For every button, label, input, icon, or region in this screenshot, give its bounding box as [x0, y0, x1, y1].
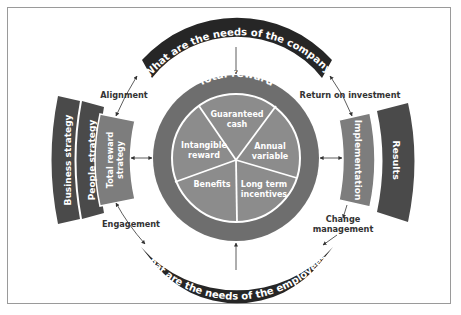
svg-text:Long term: Long term	[241, 180, 287, 189]
alignment-label: Alignment	[100, 90, 148, 100]
pie-segment-benefits: Benefits	[193, 180, 230, 189]
svg-text:variable: variable	[252, 152, 289, 161]
svg-text:Annual: Annual	[254, 142, 286, 151]
engagement-label: Engagement	[102, 219, 160, 229]
business-strategy-label: Business strategy	[63, 114, 73, 205]
total-reward-strategy-label-1: Total reward	[106, 131, 115, 188]
pie-segment-long-term-incentives: Long term incentives	[241, 180, 288, 199]
svg-text:cash: cash	[227, 120, 248, 129]
implementation-label: Implementation	[353, 120, 363, 201]
results-label: Results	[391, 140, 402, 180]
total-reward-strategy-label-2: strategy	[116, 140, 125, 179]
svg-text:Benefits: Benefits	[193, 180, 230, 189]
return-on-investment-label: Return on investment	[300, 90, 401, 100]
svg-text:incentives: incentives	[241, 190, 288, 199]
svg-text:reward: reward	[188, 151, 220, 160]
change-management-label-1: Change	[326, 214, 361, 224]
svg-text:Intangible: Intangible	[181, 141, 228, 150]
total-reward-diagram: What are the needs of the company? What …	[0, 0, 461, 315]
change-management-label-2: management	[313, 224, 374, 234]
right-panels: Implementation Results	[339, 103, 415, 222]
left-panels: Business strategy People strategy Total …	[52, 96, 136, 224]
change-down-arrow	[323, 235, 337, 245]
people-strategy-label: People strategy	[87, 120, 97, 201]
pie-segment-annual-variable: Annual variable	[252, 142, 289, 161]
svg-text:Guaranteed: Guaranteed	[210, 110, 263, 119]
